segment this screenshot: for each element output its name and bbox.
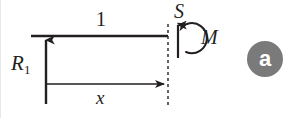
distance-label: x [96,88,104,107]
reaction-force-label: R1 [11,53,30,74]
beam-free-body-diagram: 1 R1 S M x a [0,0,300,118]
reaction-force-symbol: R [11,51,24,75]
shear-force-label: S [174,1,184,21]
span-length-label: 1 [96,9,106,29]
reaction-force-subscript: 1 [24,62,31,77]
moment-label: M [201,27,218,47]
figure-part-badge: a [247,41,283,77]
